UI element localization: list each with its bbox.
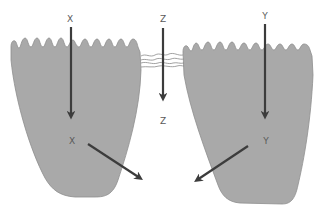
- label-z-top: Z: [160, 14, 166, 24]
- left-cell: [11, 38, 141, 197]
- diagram-canvas: X X Z Z Y Y: [0, 0, 322, 214]
- label-y-mid: Y: [262, 136, 269, 146]
- right-cell-body: [183, 42, 313, 204]
- right-cell: [183, 42, 313, 204]
- label-x-top: X: [67, 14, 73, 24]
- pathway-z: Z Z: [160, 14, 166, 126]
- left-cell-body: [11, 38, 141, 197]
- label-z-bottom: Z: [160, 116, 166, 126]
- label-x-mid: X: [69, 136, 75, 146]
- label-y-top: Y: [261, 11, 268, 21]
